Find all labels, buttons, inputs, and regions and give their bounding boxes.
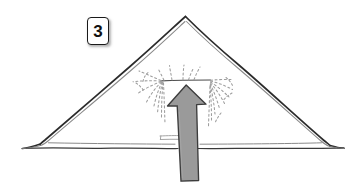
radiating-dotted-rays — [133, 71, 165, 124]
step-number-badge: 3 — [87, 17, 109, 45]
radiating-dotted-rays-right — [209, 78, 234, 127]
tent-illustration — [0, 0, 361, 193]
radiating-dotted-rays-top — [158, 65, 200, 80]
diagram-canvas: 3 — [0, 0, 361, 193]
upward-arrow — [168, 85, 207, 181]
step-number-label: 3 — [93, 23, 102, 40]
